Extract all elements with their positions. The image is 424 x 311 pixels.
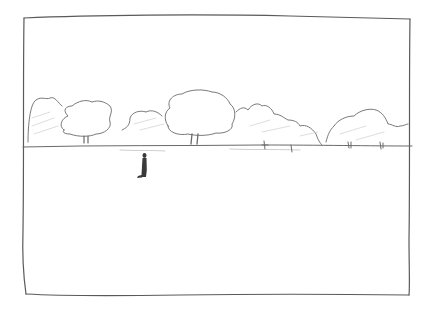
bush-left xyxy=(28,98,62,142)
tree-line xyxy=(28,90,408,145)
tree-center xyxy=(165,90,235,135)
frame-border xyxy=(23,15,410,296)
figure-body xyxy=(137,158,147,178)
grass-tufts xyxy=(262,141,383,152)
bush-right-center xyxy=(236,104,322,145)
standing-figure xyxy=(137,153,147,178)
bush-middle xyxy=(122,111,162,130)
horizon-line xyxy=(23,145,412,151)
figure-head xyxy=(143,153,147,158)
sketch-canvas xyxy=(0,0,424,311)
tree-left xyxy=(61,101,111,137)
